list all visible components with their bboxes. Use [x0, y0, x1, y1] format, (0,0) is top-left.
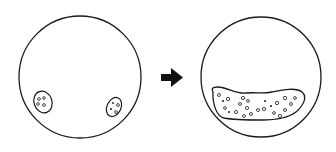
- left-cluster-2: [103, 95, 124, 119]
- left-dish: [19, 16, 141, 138]
- merged-cluster: [212, 87, 304, 120]
- left-cluster-1: [31, 89, 55, 116]
- diagram-svg: [0, 0, 336, 152]
- diagram-canvas: [0, 0, 336, 152]
- right-arrow-icon: [161, 68, 183, 87]
- right-dish: [201, 17, 321, 137]
